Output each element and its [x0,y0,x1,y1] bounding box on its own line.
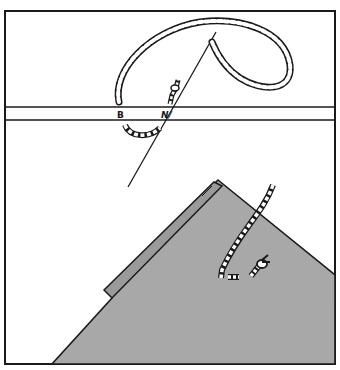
thread-loop-under [125,125,160,135]
needle [128,32,216,187]
sewing-illustration: B N/ [0,0,340,370]
thread-loop-top [118,21,290,102]
strip-label-n: N/ [161,110,173,120]
strip-label-b: B [117,110,124,120]
illustration-canvas: B N/ [0,0,340,370]
